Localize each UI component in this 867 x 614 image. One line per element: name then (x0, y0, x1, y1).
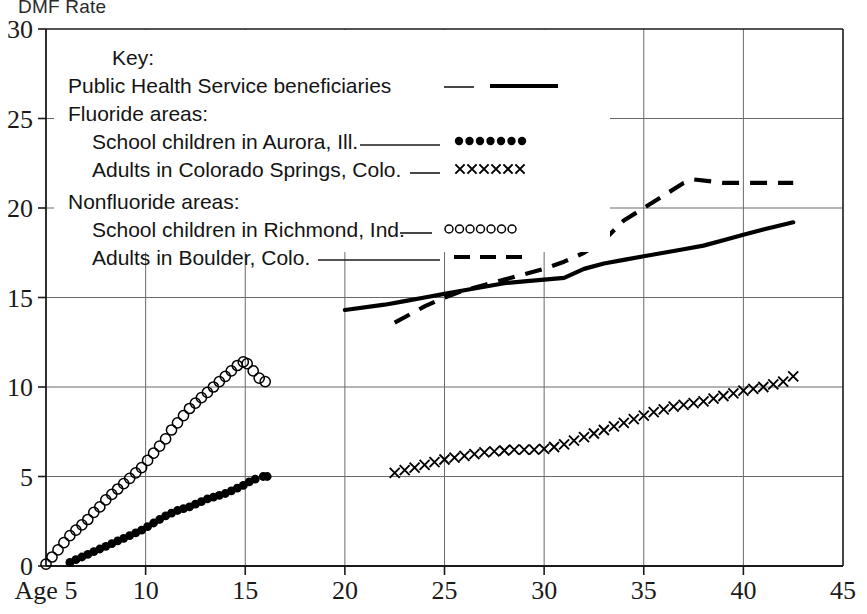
x-tick-label: 45 (830, 576, 856, 605)
marker-x (728, 388, 738, 398)
marker-x (748, 384, 758, 394)
marker-x (420, 460, 430, 470)
marker-x (699, 396, 709, 406)
marker-open-circle (254, 373, 264, 383)
x-tick-label: 25 (432, 576, 458, 605)
marker-x (689, 398, 699, 408)
marker-x (778, 377, 788, 387)
marker-open-circle (95, 502, 105, 512)
marker-x (410, 463, 420, 473)
x-tick-label: 20 (332, 576, 358, 605)
legend-label-public-health-service: Public Health Service beneficiaries (68, 74, 391, 97)
legend-title: Key: (112, 46, 154, 69)
marker-x (709, 394, 719, 404)
marker-x (669, 402, 679, 412)
marker-open-circle (184, 403, 194, 413)
marker-open-circle (47, 552, 57, 562)
marker-x (499, 446, 509, 456)
legend-sample-filled-circles (518, 137, 526, 145)
legend-group-nonfluoride-areas: Nonfluoride areas: (68, 190, 240, 213)
marker-open-circle (190, 398, 200, 408)
legend-label-colorado-springs-adults: Adults in Colorado Springs, Colo. (92, 158, 401, 181)
x-tick-label: 15 (232, 576, 258, 605)
y-tick-label: 10 (7, 373, 33, 402)
y-tick-label: 25 (7, 105, 33, 134)
marker-x (718, 391, 728, 401)
marker-x (569, 436, 579, 446)
marker-x (609, 421, 619, 431)
marker-x (649, 407, 659, 417)
marker-x (529, 445, 539, 455)
y-axis-title: DMF Rate (18, 0, 106, 18)
marker-x (579, 432, 589, 442)
marker-open-circle (59, 538, 69, 548)
marker-open-circle (101, 495, 111, 505)
marker-x (479, 447, 489, 457)
marker-open-circle (89, 507, 99, 517)
x-tick-label: 30 (531, 576, 557, 605)
marker-x (400, 465, 410, 475)
y-tick-label: 15 (7, 284, 33, 313)
marker-x (549, 442, 559, 452)
marker-x (589, 429, 599, 439)
y-tick-label: 20 (7, 194, 33, 223)
marker-open-circle (125, 473, 135, 483)
legend-label-richmond-children: School children in Richmond, Ind. (92, 218, 405, 241)
marker-filled-circle (263, 472, 272, 481)
marker-open-circle (260, 377, 270, 387)
marker-x (459, 451, 469, 461)
marker-x (679, 400, 689, 410)
marker-x (619, 418, 629, 428)
marker-x (469, 449, 479, 459)
legend-sample-filled-circles (507, 137, 515, 145)
marker-x (599, 425, 609, 435)
x-tick-label: 35 (631, 576, 657, 605)
marker-open-circle (53, 545, 63, 555)
chart-container: DMF Rate 051015202530Age 510152025303540… (0, 0, 867, 614)
marker-filled-circle (251, 475, 260, 484)
legend-sample-filled-circles (465, 137, 473, 145)
x-tick-label: 40 (730, 576, 756, 605)
legend-sample-filled-circles (455, 137, 463, 145)
x-tick-label: 10 (133, 576, 159, 605)
marker-x (788, 371, 798, 381)
marker-x (509, 445, 519, 455)
marker-open-circle (232, 360, 242, 370)
marker-x (659, 404, 669, 414)
marker-open-circle (149, 448, 159, 458)
marker-x (559, 439, 569, 449)
y-tick-label: 5 (20, 463, 33, 492)
legend-label-aurora-children: School children in Aurora, Ill. (92, 130, 358, 153)
y-tick-label: 30 (7, 15, 33, 44)
marker-x (450, 453, 460, 463)
chart-svg: 051015202530Age 51015202530354045Key:Pub… (0, 0, 867, 614)
legend-group-fluoride-areas: Fluoride areas: (68, 102, 208, 125)
marker-open-circle (226, 366, 236, 376)
marker-open-circle (65, 531, 75, 541)
x-tick-label: Age 5 (15, 576, 78, 605)
marker-x (768, 379, 778, 389)
marker-x (519, 445, 529, 455)
marker-open-circle (107, 489, 117, 499)
legend-sample-filled-circles (497, 137, 505, 145)
legend-sample-filled-circles (486, 137, 494, 145)
marker-open-circle (71, 525, 81, 535)
marker-x (430, 457, 440, 467)
legend-label-boulder-adults: Adults in Boulder, Colo. (92, 246, 310, 269)
marker-x (629, 414, 639, 424)
marker-open-circle (178, 411, 188, 421)
legend-sample-filled-circles (476, 137, 484, 145)
marker-x (489, 446, 499, 456)
